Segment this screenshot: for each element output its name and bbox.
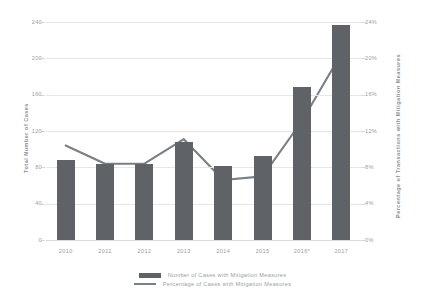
legend-item-line: Percentage of Cases with Mitigation Meas… bbox=[134, 281, 292, 287]
gridline bbox=[46, 58, 361, 59]
y-axis-tick-label-left: 0 bbox=[22, 237, 42, 243]
x-axis-tick-label: 2011 bbox=[85, 248, 124, 254]
bar-2010 bbox=[57, 160, 75, 240]
y-axis-tick-label-left: 200 bbox=[22, 55, 42, 61]
gridline bbox=[46, 131, 361, 132]
line-swatch-icon bbox=[134, 283, 156, 285]
gridline bbox=[46, 22, 361, 23]
gridline bbox=[46, 240, 361, 241]
plot-area: 040801201602002400%4%8%12%16%20%24%20102… bbox=[46, 22, 361, 240]
bar-2016 bbox=[293, 87, 311, 240]
bar-2017 bbox=[332, 25, 350, 240]
chart-legend: Number of Cases with Mitigation Measures… bbox=[0, 272, 425, 287]
bar-2013 bbox=[175, 142, 193, 240]
y-axis-tick-label-right: 16% bbox=[365, 91, 387, 97]
y-axis-tick-label-right: 20% bbox=[365, 55, 387, 61]
legend-item-bar: Number of Cases with Mitigation Measures bbox=[139, 272, 287, 278]
chart-container: Total Number of Cases Percentage of Tran… bbox=[0, 0, 425, 308]
x-axis-tick-label: 2012 bbox=[125, 248, 164, 254]
x-axis-tick-label: 2016* bbox=[282, 248, 321, 254]
y-axis-tick-label-left: 80 bbox=[22, 164, 42, 170]
x-axis-tick-label: 2017 bbox=[322, 248, 361, 254]
y-axis-tick-label-right: 24% bbox=[365, 19, 387, 25]
y-axis-tick-label-right: 12% bbox=[365, 128, 387, 134]
bar-2014 bbox=[214, 166, 232, 240]
y-axis-title-left: Total Number of Cases bbox=[23, 58, 29, 218]
y-axis-tick-label-right: 4% bbox=[365, 200, 387, 206]
bar-2015 bbox=[254, 156, 272, 240]
y-axis-tick-label-right: 0% bbox=[365, 237, 387, 243]
y-axis-title-right: Percentage of Transactions with Mitigati… bbox=[395, 58, 401, 218]
gridline bbox=[46, 167, 361, 168]
x-axis-tick-label: 2010 bbox=[46, 248, 85, 254]
y-axis-tick-label-right: 8% bbox=[365, 164, 387, 170]
gridline bbox=[46, 95, 361, 96]
x-axis-tick-label: 2015 bbox=[243, 248, 282, 254]
y-axis-tick-label-left: 240 bbox=[22, 19, 42, 25]
y-axis-tick-label-left: 160 bbox=[22, 91, 42, 97]
x-axis-tick-label: 2014 bbox=[204, 248, 243, 254]
bar-2012 bbox=[135, 164, 153, 240]
legend-label-line: Percentage of Cases with Mitigation Meas… bbox=[163, 281, 292, 287]
bar-2011 bbox=[96, 164, 114, 240]
x-axis-tick-label: 2013 bbox=[164, 248, 203, 254]
y-axis-tick-label-left: 40 bbox=[22, 200, 42, 206]
gridline bbox=[46, 204, 361, 205]
y-axis-tick-label-left: 120 bbox=[22, 128, 42, 134]
legend-label-bar: Number of Cases with Mitigation Measures bbox=[168, 272, 287, 278]
bar-swatch-icon bbox=[139, 273, 161, 278]
